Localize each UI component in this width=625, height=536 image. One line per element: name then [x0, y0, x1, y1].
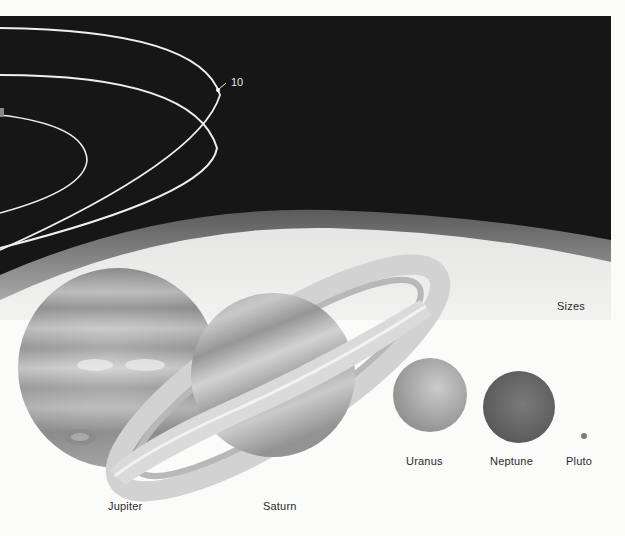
pluto — [581, 433, 587, 439]
jupiter-label: Jupiter — [108, 500, 142, 512]
uranus — [393, 358, 467, 432]
neptune — [483, 371, 555, 443]
sizes-label: Sizes — [557, 300, 585, 312]
orbit-marker-label: 10 — [231, 76, 243, 88]
uranus-label: Uranus — [406, 455, 443, 467]
neptune-label: Neptune — [490, 455, 533, 467]
pluto-label: Pluto — [566, 455, 592, 467]
saturn-label: Saturn — [263, 500, 297, 512]
